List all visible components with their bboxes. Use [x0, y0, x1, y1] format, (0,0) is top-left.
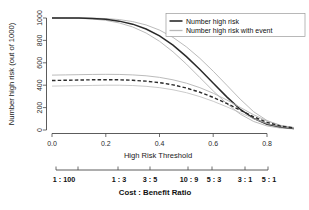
- y-axis-tick-labels: 0 200 400 600 800 1000: [36, 10, 43, 132]
- y-tick-label-400: 400: [36, 79, 43, 91]
- cb-label-5-1: 5 : 1: [262, 175, 276, 184]
- cb-label-5-3: 5 : 3: [207, 175, 221, 184]
- legend: Number high risk Number high risk with e…: [166, 14, 305, 37]
- y-axis: 0 200 400 600 800 1000 Number high risk …: [7, 10, 47, 132]
- curve-with-event-lower-ci: [52, 85, 294, 128]
- cost-benefit-tick-labels: 1 : 100 1 : 3 3 : 5 10 : 9 5 : 3 3 : 1 5…: [53, 175, 276, 184]
- y-tick-label-800: 800: [36, 34, 43, 46]
- x-tick-label-1: 0.2: [101, 140, 111, 147]
- y-tick-label-0: 0: [36, 128, 43, 132]
- y-axis-title: Number high risk (out of 1000): [7, 22, 16, 125]
- x-axis: 0.0 0.2 0.4 0.6 0.8 High Risk Threshold: [47, 134, 272, 161]
- decision-curve-plot: 0 200 400 600 800 1000 Number high risk …: [0, 0, 309, 210]
- cost-benefit-ticks: [56, 167, 268, 171]
- x-tick-label-4: 0.8: [262, 140, 272, 147]
- cb-label-3-1: 3 : 1: [238, 175, 252, 184]
- x-tick-label-2: 0.4: [155, 140, 165, 147]
- chart-figure: 0 200 400 600 800 1000 Number high risk …: [0, 0, 309, 210]
- cb-label-10-9: 10 : 9: [180, 175, 198, 184]
- cost-benefit-axis: 1 : 100 1 : 3 3 : 5 10 : 9 5 : 3 3 : 1 5…: [53, 167, 276, 198]
- x-tick-label-0: 0.0: [47, 140, 57, 147]
- y-tick-label-600: 600: [36, 57, 43, 69]
- cb-label-1-100: 1 : 100: [53, 175, 75, 184]
- cb-label-3-5: 3 : 5: [143, 175, 157, 184]
- y-tick-label-1000: 1000: [36, 10, 43, 26]
- cb-label-1-3: 1 : 3: [112, 175, 126, 184]
- x-axis-ticks: [52, 134, 267, 138]
- cost-benefit-axis-title: Cost : Benefit Ratio: [119, 188, 192, 197]
- x-axis-tick-labels: 0.0 0.2 0.4 0.6 0.8: [47, 140, 272, 147]
- legend-label-number-high-risk: Number high risk: [186, 18, 239, 26]
- y-tick-label-200: 200: [36, 102, 43, 114]
- y-axis-ticks: [43, 18, 47, 130]
- legend-label-number-high-risk-with-event: Number high risk with event: [186, 27, 272, 35]
- x-tick-label-3: 0.6: [208, 140, 218, 147]
- x-axis-title: High Risk Threshold: [124, 151, 192, 160]
